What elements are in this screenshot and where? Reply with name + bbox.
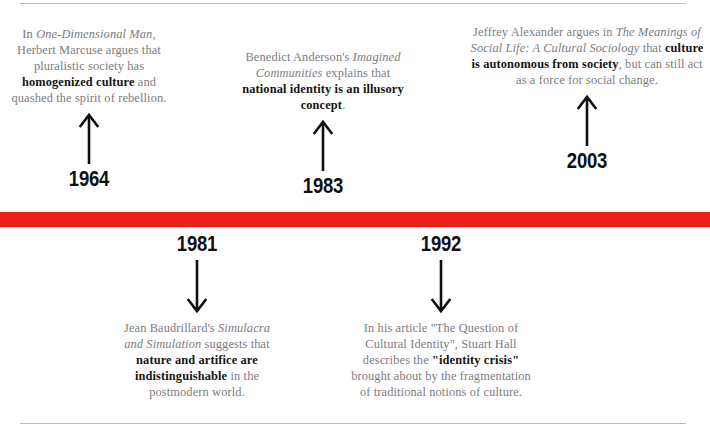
top-divider-rule [20,3,686,4]
event-description: Jean Baudrillard's Simulacra and Simulat… [116,320,278,400]
bottom-divider-rule [20,423,686,424]
timeline-axis-bar [0,212,710,227]
event-year-label: 1981 [177,233,217,255]
event-year-label: 1983 [303,175,343,197]
timeline-event-1983: Benedict Anderson's Imagined Communities… [242,49,404,197]
timeline-event-1964: In One-Dimensional Man, Herbert Marcuse … [8,26,170,190]
arrow-up-icon [576,94,598,146]
arrow-down-icon [186,260,208,314]
timeline-infographic: In One-Dimensional Man, Herbert Marcuse … [0,0,710,443]
event-year-label: 1992 [421,233,461,255]
event-year-label: 1964 [69,168,109,190]
event-year-label: 2003 [567,150,607,172]
event-description: Jeffrey Alexander argues in The Meanings… [468,24,706,88]
timeline-event-1981: 1981 Jean Baudrillard's Simulacra and Si… [116,233,278,400]
arrow-up-icon [78,112,100,164]
arrow-down-icon [430,260,452,314]
event-description: In One-Dimensional Man, Herbert Marcuse … [8,26,170,106]
arrow-up-icon [312,119,334,171]
event-description: Benedict Anderson's Imagined Communities… [242,49,404,113]
timeline-event-1992: 1992 In his article "The Question of Cul… [348,233,534,400]
event-description: In his article "The Question of Cultural… [348,320,534,400]
timeline-event-2003: Jeffrey Alexander argues in The Meanings… [468,24,706,172]
